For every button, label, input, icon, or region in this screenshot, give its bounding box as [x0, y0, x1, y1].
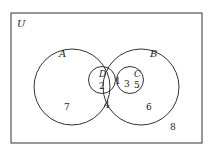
- region-c-in-a: 3: [124, 79, 130, 89]
- set-c-label: C: [134, 69, 141, 79]
- region-d-only: 2: [99, 81, 105, 91]
- region-b-only: 6: [146, 102, 152, 112]
- region-outside: 8: [170, 122, 176, 132]
- set-d-label: D: [98, 69, 106, 79]
- venn-diagram: U A B D C 2 1 3 5 7 4 6 8: [0, 0, 211, 147]
- region-a-only: 7: [64, 102, 70, 112]
- region-c-only: 5: [134, 80, 140, 90]
- region-d-and-c: 1: [115, 76, 121, 86]
- set-b-label: B: [149, 48, 157, 59]
- region-a-and-b: 4: [104, 100, 110, 110]
- set-a-label: A: [58, 48, 66, 59]
- universe-label: U: [17, 18, 26, 29]
